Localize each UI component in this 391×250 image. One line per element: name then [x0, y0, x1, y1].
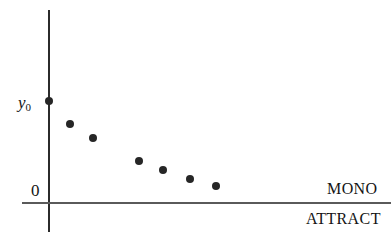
origin-label: 0	[31, 182, 40, 199]
vertical-axis	[48, 10, 50, 232]
data-point	[135, 157, 143, 165]
data-point	[45, 97, 53, 105]
y-initial-value-label: y0	[18, 94, 31, 111]
figure-canvas: y0 0 MONO ATTRACT	[0, 0, 391, 250]
y-initial-value-symbol: y	[18, 93, 26, 112]
attract-label: ATTRACT	[306, 211, 381, 227]
data-point	[186, 175, 194, 183]
horizontal-axis	[22, 202, 391, 204]
data-point	[212, 182, 220, 190]
data-point	[89, 134, 97, 142]
data-point	[66, 120, 74, 128]
y-initial-value-subscript: 0	[26, 101, 32, 113]
data-point	[159, 166, 167, 174]
mono-label: MONO	[327, 181, 378, 197]
